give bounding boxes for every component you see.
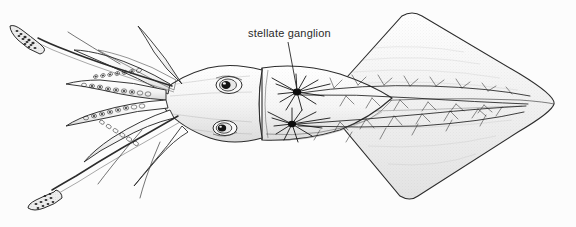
label-stellate-ganglion: stellate ganglion [248, 28, 331, 39]
eye-upper [216, 76, 242, 94]
squid-anatomy-figure: stellate ganglion [0, 0, 576, 227]
tentacle-lower [28, 116, 180, 210]
eye-lower [213, 121, 237, 137]
